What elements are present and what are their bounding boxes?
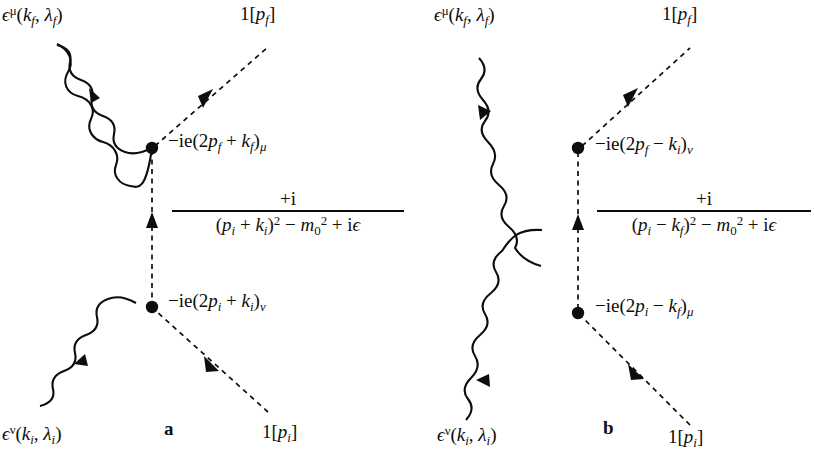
photon-line-incoming-b	[465, 230, 542, 420]
caption-b: b	[603, 417, 614, 439]
scalar-arrow-outgoing-a	[198, 89, 213, 108]
vertex-lower-a	[146, 301, 158, 313]
vertex-label-upper-b: −ie(2pf − ki)ν	[595, 134, 693, 156]
feynman-diagram-figure: ϵμ(kf, λf) 1[pf] −ie(2pf + kf)μ +i (pi +…	[0, 0, 814, 455]
photon-line-incoming-a	[40, 297, 136, 406]
propagator-expression-b: +i (pi − kf)2 − m02 + iϵ	[597, 188, 811, 238]
vertex-label-lower-a: −ie(2pi + ki)ν	[168, 291, 266, 313]
scalar-line-incoming-a	[156, 311, 268, 412]
propagator-arrow-b	[572, 214, 584, 230]
propagator-denominator-a: (pi + ki)2 − m02 + iϵ	[172, 212, 404, 238]
caption-a: a	[164, 418, 174, 440]
scalar-arrow-incoming-b	[628, 364, 644, 380]
label-photon-initial-b: ϵν(ki, λi)	[437, 424, 497, 447]
propagator-denominator-b: (pi − kf)2 − m02 + iϵ	[597, 212, 811, 238]
photon-arrow-incoming-a	[74, 354, 88, 366]
label-photon-final-b: ϵμ(kf, λf)	[434, 4, 495, 27]
photon-arrow-incoming-b	[476, 374, 490, 387]
photon-line-outgoing-a	[57, 44, 152, 187]
label-scalar-final-b: 1[pf]	[662, 4, 697, 26]
vertex-label-upper-a: −ie(2pf + kf)μ	[168, 131, 266, 153]
scalar-line-outgoing-b	[582, 48, 690, 146]
scalar-arrow-incoming-a	[204, 356, 219, 372]
propagator-arrow-a	[146, 212, 158, 228]
label-scalar-final-a: 1[pf]	[240, 4, 275, 26]
propagator-expression-a: +i (pi + ki)2 − m02 + iϵ	[172, 188, 404, 238]
photon-arrow-outgoing-b	[478, 105, 491, 120]
photon-line-outgoing-b	[477, 58, 541, 266]
vertex-upper-b	[572, 142, 584, 154]
label-photon-initial-a: ϵν(ki, λi)	[2, 423, 62, 446]
vertex-label-lower-b: −ie(2pi − kf)μ	[595, 296, 693, 318]
scalar-line-incoming-b	[582, 317, 690, 425]
label-scalar-initial-b: 1[pi]	[668, 427, 703, 449]
label-photon-final-a: ϵμ(kf, λf)	[2, 4, 63, 27]
vertex-lower-b	[572, 307, 584, 319]
photon-arrow-outgoing-a	[89, 88, 100, 103]
photon-line-outgoing-a-main	[57, 45, 152, 153]
scalar-arrow-outgoing-b	[623, 88, 638, 107]
label-scalar-initial-a: 1[pi]	[262, 422, 297, 444]
vertex-upper-a	[146, 142, 158, 154]
